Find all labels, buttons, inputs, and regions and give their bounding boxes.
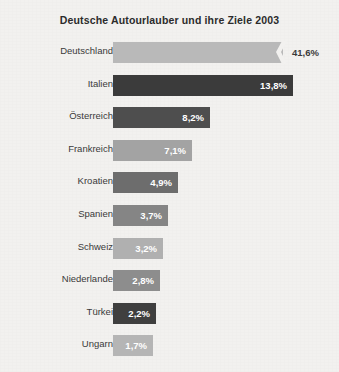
category-label: Niederlande <box>0 273 113 284</box>
bar-value-label: 4,9% <box>150 172 172 193</box>
bar-value-label: 7,1% <box>164 140 186 161</box>
chart-row: Kroatien4,9% <box>0 170 339 203</box>
category-label: Schweiz <box>0 241 113 252</box>
category-label: Deutschland <box>0 45 113 56</box>
bar-value-label: 3,2% <box>135 238 157 259</box>
category-label: Spanien <box>0 208 113 219</box>
bar-value-label: 13,8% <box>260 75 287 96</box>
chart-row: Deutschland41,6% <box>0 40 339 73</box>
bar-value-label: 2,8% <box>132 270 154 291</box>
bar-track: 4,9% <box>113 172 337 193</box>
chart-row: Österreich8,2% <box>0 105 339 138</box>
bar-value-label: 2,2% <box>128 303 150 324</box>
bar-track: 13,8% <box>113 75 337 96</box>
bar-track: 8,2% <box>113 107 337 128</box>
category-label: Ungarn <box>0 338 113 349</box>
chart-row: Italien13,8% <box>0 73 339 106</box>
bar-value-label: 3,7% <box>140 205 162 226</box>
chart-title: Deutsche Autourlauber und ihre Ziele 200… <box>0 14 339 26</box>
chart-row: Spanien3,7% <box>0 203 339 236</box>
category-label: Frankreich <box>0 143 113 154</box>
chart-row: Türkei2,2% <box>0 301 339 334</box>
bar-track: 7,1% <box>113 140 337 161</box>
bar-chart: Deutsche Autourlauber und ihre Ziele 200… <box>0 0 339 372</box>
bar-track: 1,7% <box>113 335 337 356</box>
category-label: Türkei <box>0 306 113 317</box>
category-label: Italien <box>0 78 113 89</box>
category-label: Österreich <box>0 110 113 121</box>
bar-track: 2,2% <box>113 303 337 324</box>
category-label: Kroatien <box>0 175 113 186</box>
chart-row: Ungarn1,7% <box>0 333 339 366</box>
bar-track: 2,8% <box>113 270 337 291</box>
bar-track: 3,7% <box>113 205 337 226</box>
bar-value-label: 8,2% <box>182 107 204 128</box>
bar-value-label: 41,6% <box>292 42 319 63</box>
chart-plot-area: Deutschland41,6%Italien13,8%Österreich8,… <box>0 40 339 366</box>
bar <box>113 42 283 63</box>
bar-track: 3,2% <box>113 238 337 259</box>
chart-row: Schweiz3,2% <box>0 236 339 269</box>
chart-row: Niederlande2,8% <box>0 268 339 301</box>
bar-value-label: 1,7% <box>125 335 147 356</box>
chart-row: Frankreich7,1% <box>0 138 339 171</box>
bar-track: 41,6% <box>113 42 337 63</box>
